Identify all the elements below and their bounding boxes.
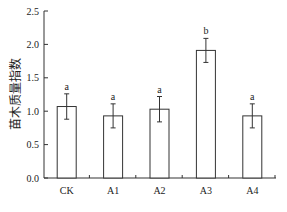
chart-canvas: 0.00.51.01.52.02.5aCKaA1aA2bA3aA4 (0, 0, 287, 212)
x-tick-label: A1 (107, 185, 119, 196)
significance-letter: a (111, 91, 116, 102)
significance-letter: a (157, 84, 162, 95)
bar-a3 (196, 50, 215, 178)
y-tick-label: 2.0 (27, 39, 40, 50)
x-tick-label: A4 (246, 185, 258, 196)
y-tick-label: 1.0 (27, 106, 40, 117)
x-tick-label: A3 (200, 185, 212, 196)
significance-letter: b (203, 25, 208, 36)
y-tick-label: 0.0 (27, 173, 40, 184)
y-tick-label: 2.5 (27, 6, 40, 17)
x-tick-label: CK (60, 185, 75, 196)
significance-letter: a (250, 91, 255, 102)
y-tick-label: 0.5 (27, 139, 40, 150)
y-tick-label: 1.5 (27, 72, 40, 83)
y-axis-label: 苗木质量指数 (6, 58, 23, 130)
x-tick-label: A2 (153, 185, 165, 196)
significance-letter: a (64, 81, 69, 92)
bar-chart: 0.00.51.01.52.02.5aCKaA1aA2bA3aA4 苗木质量指数 (0, 0, 287, 212)
